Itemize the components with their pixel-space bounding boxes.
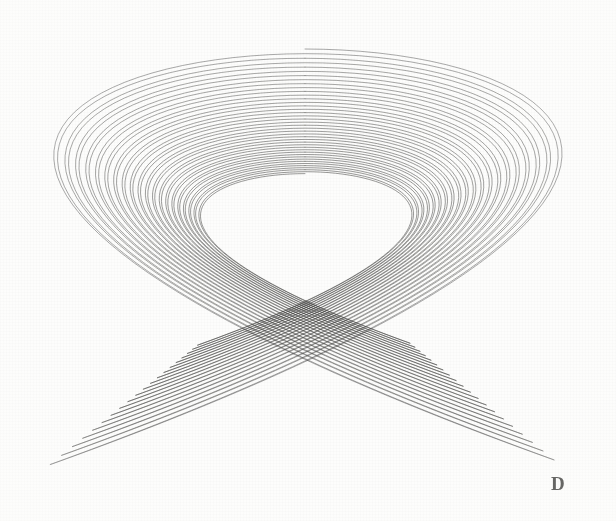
plot-background [0, 0, 616, 521]
figure-label: D [551, 474, 565, 493]
harmonograph-figure-page: D [0, 0, 616, 521]
harmonograph-plot [0, 0, 616, 521]
